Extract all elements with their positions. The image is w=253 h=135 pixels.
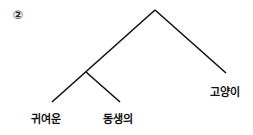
branch-inner-right bbox=[86, 72, 120, 102]
leaf-label-2: 동생의 bbox=[103, 110, 133, 126]
leaf-label-1: 귀여운 bbox=[31, 110, 61, 126]
branch-root-right bbox=[155, 10, 226, 73]
leaf-label-3: 고양이 bbox=[210, 83, 240, 99]
